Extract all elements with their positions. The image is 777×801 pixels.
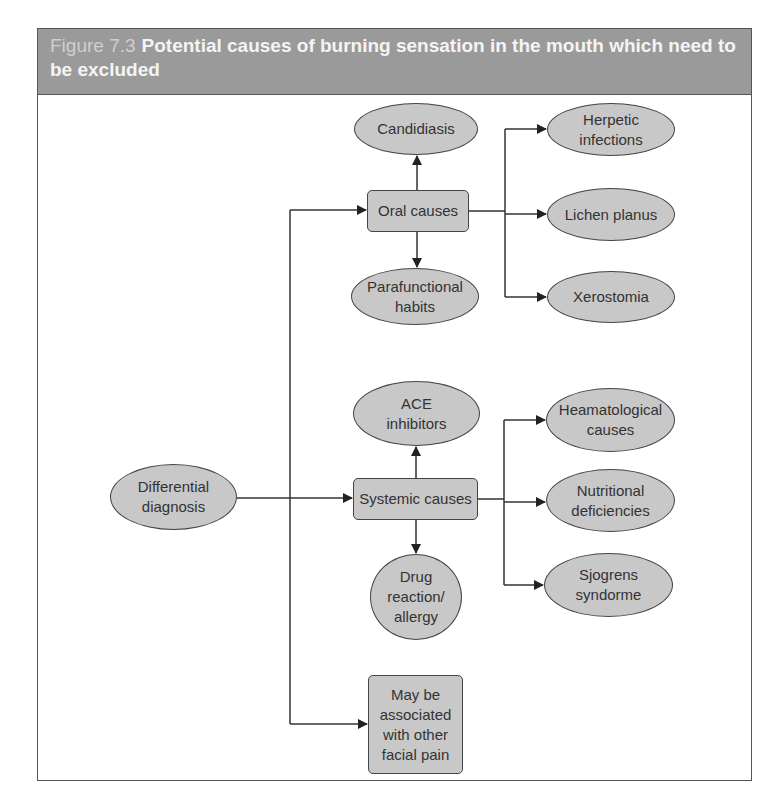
node-nutritional-deficiencies: Nutritional deficiencies <box>546 469 675 532</box>
node-xerostomia: Xerostomia <box>547 271 675 323</box>
node-parafunctional-habits: Parafunctional habits <box>351 268 479 325</box>
node-systemic-causes: Systemic causes <box>353 478 478 520</box>
node-sjogrens-syndrome: Sjogrens syndorme <box>544 553 673 617</box>
node-candidiasis: Candidiasis <box>354 103 478 155</box>
node-drug-reaction-allergy: Drug reaction/ allergy <box>370 554 462 640</box>
node-ace-inhibitors: ACE inhibitors <box>353 381 480 446</box>
node-heamatological-causes: Heamatological causes <box>546 388 675 452</box>
node-herpetic-infections: Herpetic infections <box>547 103 675 156</box>
node-differential-diagnosis: Differential diagnosis <box>110 464 237 530</box>
node-oral-causes: Oral causes <box>367 190 469 232</box>
node-facial-pain: May be associated with other facial pain <box>368 675 463 774</box>
node-lichen-planus: Lichen planus <box>547 188 675 241</box>
